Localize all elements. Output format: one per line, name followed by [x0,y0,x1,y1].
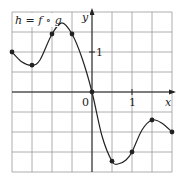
x-axis-arrow-icon [169,90,176,95]
data-point [110,159,115,164]
x-tick-label-1: 1 [129,96,136,109]
y-axis-label: y [81,11,89,24]
data-point [170,130,175,135]
function-label: h = f ∘ g [15,14,62,27]
data-point [50,32,55,37]
origin-label: 0 [82,96,89,109]
data-point [90,90,95,95]
data-point [150,118,155,123]
function-graph: h = f ∘ g y x 0 1 1 [0,0,183,181]
data-point [30,63,35,68]
data-point [70,32,75,37]
x-axis-label: x [165,96,172,109]
data-point [10,50,15,55]
data-point [130,150,135,155]
y-tick-label-1: 1 [96,46,103,59]
axes [12,8,176,172]
y-axis-arrow-icon [90,8,95,15]
